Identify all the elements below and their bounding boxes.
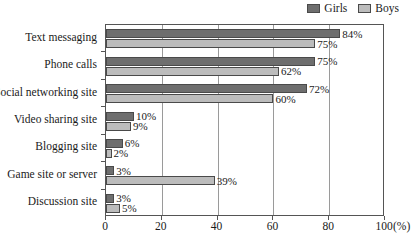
bar-line: 3%	[106, 194, 383, 203]
bar-line: 75%	[106, 39, 383, 48]
legend-swatch-girls	[307, 4, 320, 13]
bar-value-label: 39%	[215, 175, 237, 186]
bar-girls-6	[106, 194, 114, 203]
plot-area: 84%75%75%62%72%60%10%9%6%2%3%39%3%5%	[105, 24, 384, 216]
bar-group: 3%39%	[106, 166, 383, 186]
x-axis-label-60: 60	[267, 221, 279, 233]
chart-legend: Girls Boys	[307, 3, 399, 15]
bar-line: 39%	[106, 176, 383, 185]
bar-value-label: 60%	[273, 93, 295, 104]
bar-group: 72%60%	[106, 84, 383, 104]
bar-value-label: 84%	[340, 28, 362, 39]
bar-group: 75%62%	[106, 56, 383, 76]
bar-line: 6%	[106, 139, 383, 148]
bar-line: 3%	[106, 166, 383, 175]
legend-swatch-boys	[358, 4, 371, 13]
bar-boys-6	[106, 204, 120, 213]
bar-group: 84%75%	[106, 29, 383, 49]
bar-line: 62%	[106, 67, 383, 76]
bar-line: 84%	[106, 29, 383, 38]
bar-value-label: 75%	[315, 56, 337, 67]
bar-group: 6%2%	[106, 138, 383, 158]
bar-chart: Girls Boys Text messagingPhone callsSoci…	[0, 0, 417, 242]
legend-entry-girls: Girls	[307, 3, 347, 15]
bar-line: 60%	[106, 94, 383, 103]
bar-line: 72%	[106, 84, 383, 93]
bar-boys-5	[106, 176, 215, 185]
y-axis-label-1: Phone calls	[44, 59, 97, 71]
bar-boys-2	[106, 94, 273, 103]
bar-value-label: 3%	[114, 165, 131, 176]
bar-line: 5%	[106, 204, 383, 213]
bar-value-label: 72%	[307, 83, 329, 94]
y-axis-labels: Text messagingPhone callsSocial networki…	[0, 24, 101, 216]
legend-entry-boys: Boys	[358, 3, 399, 15]
y-axis-label-5: Game site or server	[7, 169, 97, 181]
bar-group: 10%9%	[106, 111, 383, 131]
bar-value-label: 9%	[131, 121, 148, 132]
y-axis-label-2: Social networking site	[0, 87, 97, 99]
bar-line: 75%	[106, 57, 383, 66]
y-axis-label-4: Blogging site	[35, 142, 97, 154]
x-axis-label-0: 0	[102, 221, 108, 233]
x-axis-label-80: 80	[322, 221, 334, 233]
y-axis-label-6: Discussion site	[28, 197, 97, 209]
legend-label-boys: Boys	[375, 3, 399, 15]
x-axis-unit-label: (%)	[393, 221, 410, 233]
bar-boys-1	[106, 67, 279, 76]
bar-rows: 84%75%75%62%72%60%10%9%6%2%3%39%3%5%	[106, 25, 383, 215]
x-axis-label-100: 100	[375, 221, 392, 233]
bar-value-label: 75%	[315, 38, 337, 49]
y-axis-label-0: Text messaging	[25, 32, 97, 44]
bar-line: 2%	[106, 149, 383, 158]
legend-label-girls: Girls	[324, 3, 347, 15]
x-axis-label-40: 40	[211, 221, 223, 233]
x-axis-label-20: 20	[155, 221, 167, 233]
x-axis-labels: 020406080100(%)	[0, 221, 417, 237]
bar-line: 9%	[106, 122, 383, 131]
bar-girls-5	[106, 166, 114, 175]
bar-group: 3%5%	[106, 193, 383, 213]
bar-boys-0	[106, 39, 315, 48]
bar-value-label: 62%	[279, 66, 301, 77]
bar-girls-0	[106, 29, 340, 38]
y-axis-label-3: Video sharing site	[14, 114, 97, 126]
bar-value-label: 5%	[120, 203, 137, 214]
bar-girls-3	[106, 112, 134, 121]
bar-value-label: 2%	[112, 148, 129, 159]
bar-boys-3	[106, 122, 131, 131]
